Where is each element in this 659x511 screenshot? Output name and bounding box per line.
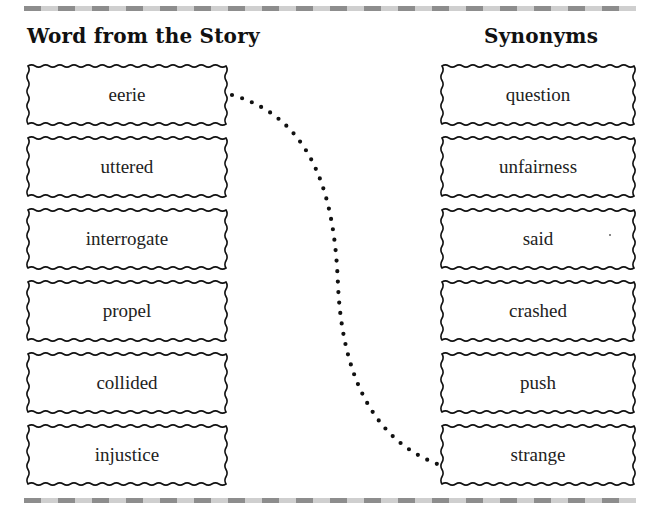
- word-box-uttered[interactable]: uttered: [25, 135, 229, 199]
- synonyms-heading: Synonyms: [484, 24, 598, 48]
- synonym-box-said[interactable]: said: [439, 207, 637, 271]
- word-label: interrogate: [25, 207, 229, 271]
- synonym-box-strange[interactable]: strange: [439, 423, 637, 487]
- stray-mark: [609, 234, 611, 236]
- word-label: propel: [25, 279, 229, 343]
- word-label: collided: [25, 351, 229, 415]
- word-label: eerie: [25, 63, 229, 127]
- word-box-eerie[interactable]: eerie: [25, 63, 229, 127]
- synonym-label: unfairness: [439, 135, 637, 199]
- word-box-propel[interactable]: propel: [25, 279, 229, 343]
- synonym-label: push: [439, 351, 637, 415]
- synonym-box-push[interactable]: push: [439, 351, 637, 415]
- synonym-box-crashed[interactable]: crashed: [439, 279, 637, 343]
- word-label: uttered: [25, 135, 229, 199]
- top-decorative-stripe: [24, 6, 636, 11]
- word-box-interrogate[interactable]: interrogate: [25, 207, 229, 271]
- word-box-collided[interactable]: collided: [25, 351, 229, 415]
- synonym-box-unfairness[interactable]: unfairness: [439, 135, 637, 199]
- synonym-label: strange: [439, 423, 637, 487]
- synonym-label: said: [439, 207, 637, 271]
- synonym-box-question[interactable]: question: [439, 63, 637, 127]
- synonym-label: crashed: [439, 279, 637, 343]
- synonym-label: question: [439, 63, 637, 127]
- word-from-story-heading: Word from the Story: [27, 24, 260, 48]
- word-label: injustice: [25, 423, 229, 487]
- bottom-decorative-stripe: [24, 498, 636, 503]
- word-box-injustice[interactable]: injustice: [25, 423, 229, 487]
